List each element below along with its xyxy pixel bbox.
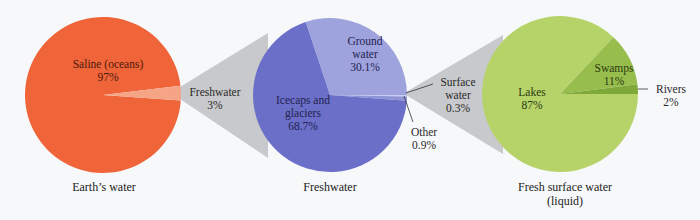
label-freshwater-pct: 3% [183,99,247,112]
label-icecaps-name2: glaciers [258,107,348,120]
label-ground-name1: Ground [330,35,400,48]
label-other-name: Other [404,126,444,139]
label-surface-water: Surface water 0.3% [430,76,486,115]
pie-earths-water [25,17,181,173]
label-rivers: Rivers 2% [646,83,696,109]
caption-pie1: Earth’s water [54,180,154,194]
pie-fresh-surface-water [482,16,638,172]
label-swamps-name: Swamps [586,62,642,75]
label-lakes-name: Lakes [507,86,557,99]
label-other: Other 0.9% [404,126,444,152]
label-icecaps-name1: Icecaps and [258,94,348,107]
caption-freshwater: Freshwater [280,180,380,194]
label-ground-pct: 30.1% [330,61,400,74]
caption-earths-water: Earth’s water [54,180,154,194]
caption-fresh-surface-water: Fresh surface water (liquid) [500,180,630,208]
label-lakes: Lakes 87% [507,86,557,112]
label-surface-name2: water [430,89,486,102]
label-surface-pct: 0.3% [430,102,486,115]
label-icecaps: Icecaps and glaciers 68.7% [258,94,348,133]
label-surface-name1: Surface [430,76,486,89]
label-rivers-pct: 2% [646,96,696,109]
caption-pie3-line1: Fresh surface water [500,180,630,194]
label-lakes-pct: 87% [507,99,557,112]
label-rivers-name: Rivers [646,83,696,96]
caption-pie3-line2: (liquid) [500,194,630,208]
label-other-pct: 0.9% [404,139,444,152]
label-swamps-pct: 11% [586,75,642,88]
label-icecaps-pct: 68.7% [258,120,348,133]
label-swamps: Swamps 11% [586,62,642,88]
label-saline: Saline (oceans) 97% [58,58,158,84]
label-ground-water: Ground water 30.1% [330,35,400,74]
label-saline-pct: 97% [58,71,158,84]
water-distribution-chart: Saline (oceans) 97% Freshwater 3% Ground… [0,0,700,220]
label-ground-name2: water [330,48,400,61]
label-freshwater-name: Freshwater [183,86,247,99]
caption-pie2: Freshwater [280,180,380,194]
label-freshwater-slice: Freshwater 3% [183,86,247,112]
label-saline-name: Saline (oceans) [58,58,158,71]
